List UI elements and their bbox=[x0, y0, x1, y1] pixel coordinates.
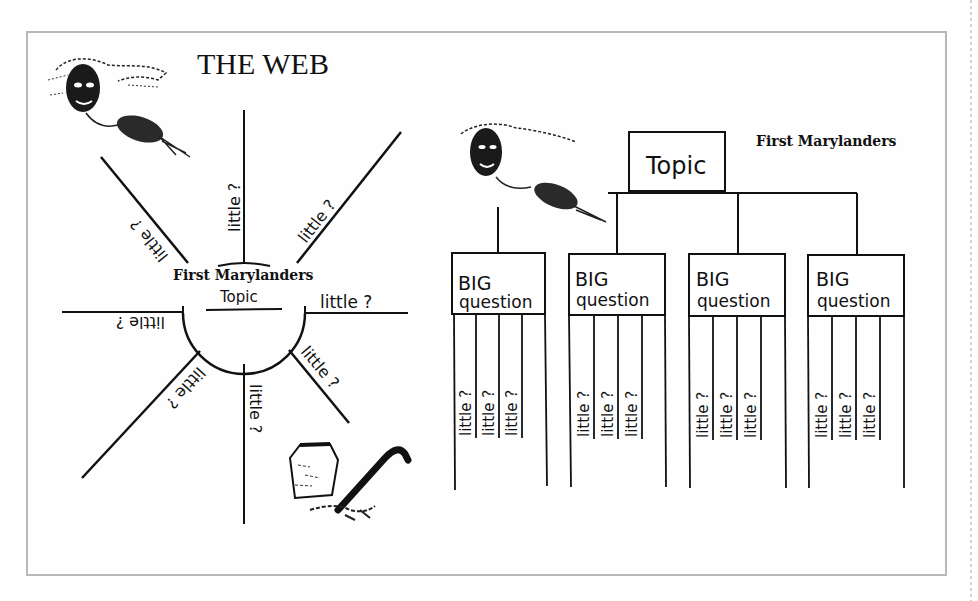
svg-text:little ?: little ? bbox=[575, 391, 593, 437]
web-diagram: THE WEB little ? little ? little ? bbox=[48, 47, 408, 524]
svg-text:little ?: little ? bbox=[837, 392, 855, 438]
svg-text:little ?: little ? bbox=[623, 391, 641, 437]
tree-header-label: First Marylanders bbox=[756, 133, 897, 149]
svg-text:question: question bbox=[459, 292, 532, 312]
web-center-label: First Marylanders bbox=[173, 267, 314, 283]
svg-text:little ?: little ? bbox=[480, 390, 498, 436]
pottery-tool-icon bbox=[290, 444, 408, 520]
svg-text:BIG: BIG bbox=[696, 268, 729, 290]
big-question-branch-1: BIG question little ? little ? little ? bbox=[452, 253, 547, 490]
diagram-canvas: THE WEB little ? little ? little ? bbox=[0, 0, 978, 601]
svg-text:BIG: BIG bbox=[575, 268, 608, 290]
web-label-down-left: little ? bbox=[162, 363, 209, 412]
svg-text:little ?: little ? bbox=[694, 392, 712, 438]
web-spoke-up-right bbox=[297, 132, 401, 263]
big-question-branch-4: BIG question little ? little ? little ? bbox=[808, 255, 904, 488]
big-question-branch-3: BIG question little ? little ? little ? bbox=[689, 254, 786, 488]
web-label-down: little ? bbox=[246, 384, 265, 433]
svg-text:question: question bbox=[817, 291, 890, 311]
tree-diagram: First Marylanders Topic BIG question lit… bbox=[452, 124, 904, 490]
svg-text:BIG: BIG bbox=[816, 268, 849, 290]
svg-text:question: question bbox=[576, 290, 649, 310]
web-spoke-down-left bbox=[82, 351, 200, 478]
native-figure-icon bbox=[461, 124, 606, 222]
svg-text:little ?: little ? bbox=[457, 390, 475, 436]
svg-text:little ?: little ? bbox=[599, 391, 617, 437]
svg-text:little ?: little ? bbox=[742, 392, 760, 438]
svg-text:BIG: BIG bbox=[458, 272, 491, 294]
svg-text:little ?: little ? bbox=[718, 392, 736, 438]
web-title: THE WEB bbox=[197, 47, 329, 80]
svg-text:little ?: little ? bbox=[813, 392, 831, 438]
svg-text:question: question bbox=[697, 291, 770, 311]
tree-root-label: Topic bbox=[645, 152, 706, 180]
big-question-branch-2: BIG question little ? little ? little ? bbox=[569, 254, 666, 487]
web-label-up: little ? bbox=[225, 183, 244, 232]
svg-text:little ?: little ? bbox=[503, 390, 521, 436]
web-label-up-left: little ? bbox=[126, 215, 172, 265]
svg-text:little ?: little ? bbox=[861, 392, 879, 438]
web-center-topic: Topic bbox=[219, 288, 258, 306]
web-label-right: little ? bbox=[320, 292, 372, 312]
web-label-left: little ? bbox=[116, 313, 165, 332]
native-figure-icon bbox=[48, 59, 190, 157]
